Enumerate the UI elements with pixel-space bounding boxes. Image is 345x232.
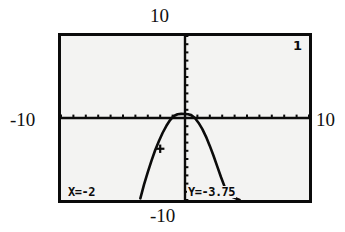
trace-y-readout: Y=-3.75 <box>187 186 236 198</box>
axes-group <box>61 36 309 200</box>
graph-plot <box>61 36 309 200</box>
axis-label-top: 10 <box>150 6 169 25</box>
axis-label-bottom: -10 <box>150 206 175 225</box>
calculator-screen[interactable]: 1 X=-2 Y=-3.75 <box>58 33 312 203</box>
graph-number-badge: 1 <box>293 39 302 52</box>
axis-label-right: 10 <box>316 110 335 129</box>
axis-label-left: -10 <box>10 110 35 129</box>
screen-viewport: 1 X=-2 Y=-3.75 <box>61 36 309 200</box>
calculator-screenshot: 10 -10 -10 10 1 X=-2 Y=-3.75 <box>0 0 345 232</box>
trace-x-readout: X=-2 <box>67 186 96 198</box>
